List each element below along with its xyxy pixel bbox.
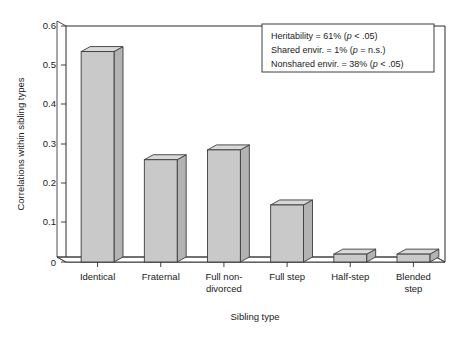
- bar-3: [271, 200, 313, 262]
- chart-figure: 0.6 0.5 0.4 0.3 0.2 0.1 0 Correlations w…: [0, 0, 457, 338]
- y-tick-label-0.5: 0.5: [43, 59, 56, 70]
- stats-line-3-pre: Nonshared envir. = 38% (: [271, 59, 373, 69]
- stats-line-3-post: < .05): [378, 59, 404, 69]
- y-tick-label-0: 0: [51, 257, 56, 268]
- x-label-3: Full step: [269, 271, 305, 282]
- bar-4: [334, 249, 376, 262]
- stats-line-2-post: = n.s.): [358, 45, 386, 55]
- bar-side-3: [304, 200, 313, 262]
- x-axis-title: Sibling type: [230, 311, 279, 322]
- x-axis-ticks: [98, 262, 414, 267]
- bar-5: [397, 249, 439, 262]
- bar-front-4: [334, 254, 367, 262]
- stats-line-2: Shared envir. = 1% (p = n.s.): [271, 45, 386, 55]
- bars-group: [81, 47, 439, 262]
- y-axis-tick-labels: 0.6 0.5 0.4 0.3 0.2 0.1 0: [43, 20, 56, 268]
- bar-2: [207, 145, 249, 262]
- y-tick-label-0.4: 0.4: [43, 98, 56, 109]
- y-tick-label-0.3: 0.3: [43, 138, 56, 149]
- bar-front-0: [81, 52, 114, 262]
- bar-front-3: [271, 205, 304, 262]
- y-axis-title: Correlations within sibling types: [15, 77, 26, 210]
- bar-front-5: [397, 254, 430, 262]
- bar-1: [144, 155, 186, 262]
- bar-side-0: [114, 47, 123, 262]
- bar-side-1: [177, 155, 186, 262]
- x-axis-category-labels: IdenticalFraternalFull non-divorcedFull …: [80, 271, 431, 294]
- bar-chart-svg: 0.6 0.5 0.4 0.3 0.2 0.1 0 Correlations w…: [0, 0, 457, 338]
- stats-line-1: Heritability = 61% (p < .05): [271, 31, 378, 41]
- bar-front-1: [144, 160, 177, 262]
- y-tick-label-0.6: 0.6: [43, 20, 56, 31]
- bar-front-2: [207, 150, 240, 262]
- x-label-4: Half-step: [331, 271, 369, 282]
- bar-side-2: [240, 145, 249, 262]
- x-label-5: Blended: [396, 271, 431, 282]
- bar-0: [81, 47, 123, 262]
- axis-3d-left-edge: [57, 21, 66, 26]
- x-label-2-line2: divorced: [206, 283, 242, 294]
- x-label-2: Full non-: [205, 271, 242, 282]
- stats-line-2-pre: Shared envir. = 1% (: [271, 45, 353, 55]
- x-label-1: Fraternal: [142, 271, 180, 282]
- y-axis-ticks: [61, 26, 66, 262]
- x-label-5-line2: step: [404, 283, 422, 294]
- stats-line-1-post: < .05): [352, 31, 378, 41]
- x-label-0: Identical: [80, 271, 115, 282]
- stats-line-3: Nonshared envir. = 38% (p < .05): [271, 59, 404, 69]
- stats-line-1-pre: Heritability = 61% (: [271, 31, 347, 41]
- stats-annotation-box: Heritability = 61% (p < .05) Shared envi…: [262, 24, 434, 72]
- y-tick-label-0.1: 0.1: [43, 216, 56, 227]
- y-tick-label-0.2: 0.2: [43, 177, 56, 188]
